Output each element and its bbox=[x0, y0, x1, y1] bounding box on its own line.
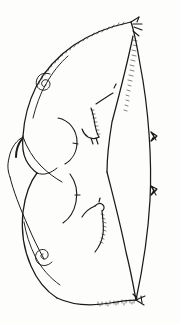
line-drawing-svg bbox=[0, 0, 181, 324]
figure-canvas bbox=[0, 0, 181, 324]
